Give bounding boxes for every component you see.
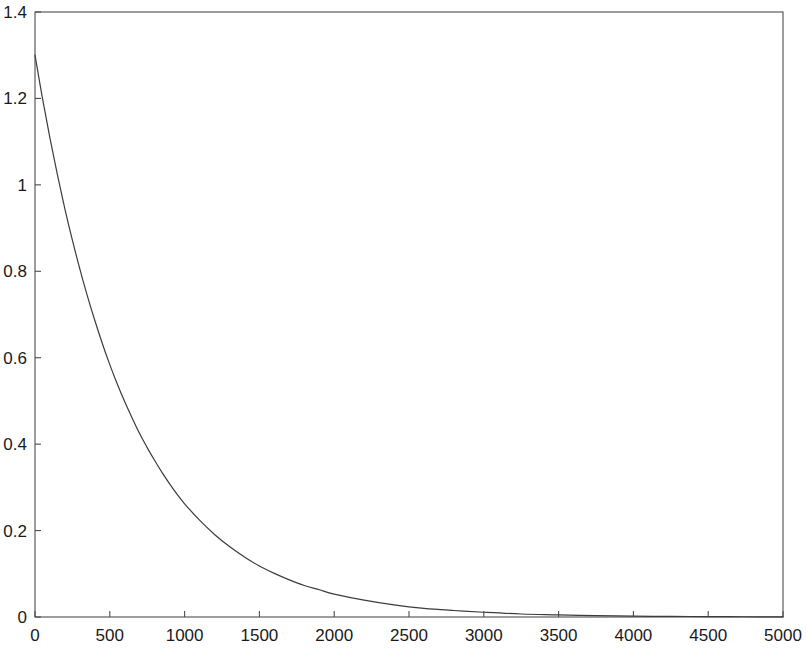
y-tick-label: 0 [18,608,27,627]
x-tick-label: 0 [30,626,39,645]
plot-background [35,12,783,617]
x-tick-label: 4000 [614,626,652,645]
x-tick-label: 3500 [540,626,578,645]
y-tick-label: 0.8 [3,262,27,281]
x-tick-label: 2500 [390,626,428,645]
exponential-decay-chart: 0500100015002000250030003500400045005000… [0,0,807,649]
y-tick-label: 1 [18,176,27,195]
y-tick-label: 0.6 [3,349,27,368]
x-tick-label: 5000 [764,626,802,645]
y-tick-label: 1.2 [3,89,27,108]
chart-figure: 0500100015002000250030003500400045005000… [0,0,807,649]
x-tick-label: 1500 [240,626,278,645]
x-tick-label: 1000 [166,626,204,645]
x-tick-label: 2000 [315,626,353,645]
y-tick-label: 0.4 [3,435,27,454]
x-tick-label: 3000 [465,626,503,645]
y-axis-tick-labels: 00.20.40.60.811.21.4 [3,3,27,627]
x-tick-label: 500 [96,626,124,645]
x-axis-tick-labels: 0500100015002000250030003500400045005000 [30,626,802,645]
x-tick-label: 4500 [689,626,727,645]
y-tick-label: 0.2 [3,522,27,541]
y-tick-label: 1.4 [3,3,27,22]
